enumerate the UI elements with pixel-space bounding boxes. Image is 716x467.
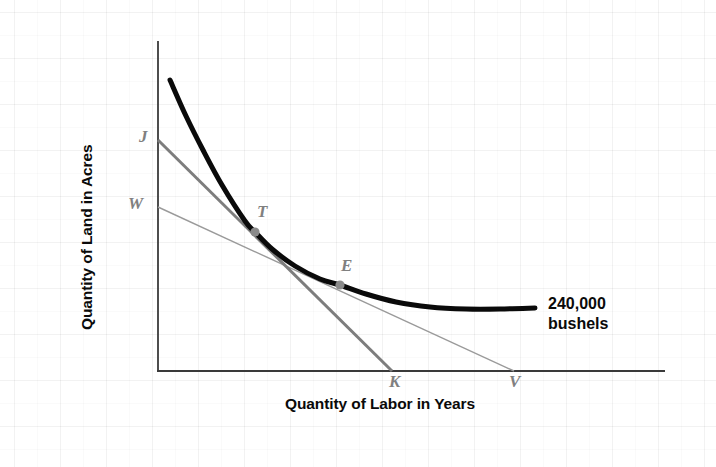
label-t: T	[257, 203, 267, 220]
label-e: E	[341, 257, 352, 274]
y-axis-title: Quantity of Land in Acres	[78, 144, 96, 330]
label-j: J	[139, 128, 148, 145]
chart-page: J W T E K V Quantity of Land in Acres Qu…	[0, 0, 716, 467]
isocost-line-wv	[158, 207, 514, 371]
label-k: K	[389, 373, 400, 390]
label-v: V	[509, 373, 520, 390]
isoquant-curve	[170, 80, 535, 309]
isocost-line-jk	[158, 140, 392, 371]
output-unit: bushels	[548, 314, 608, 334]
isoquant-output-annotation: 240,000 bushels	[548, 294, 608, 333]
label-w: W	[128, 195, 143, 212]
output-quantity: 240,000	[548, 294, 608, 314]
x-axis-title: Quantity of Labor in Years	[285, 395, 475, 413]
point-marker-e	[335, 280, 344, 289]
point-marker-t	[250, 227, 259, 236]
